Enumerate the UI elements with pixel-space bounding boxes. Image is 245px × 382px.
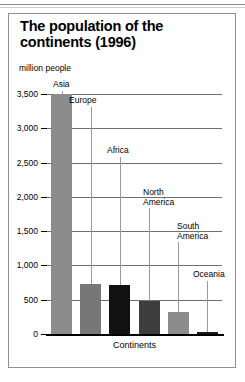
gridline xyxy=(47,197,222,198)
gridline xyxy=(47,265,222,266)
y-axis-tick xyxy=(41,94,47,95)
y-axis-tick xyxy=(41,197,47,198)
y-axis-tick-label: 1,000 xyxy=(0,260,38,270)
chart-title: The population of the continents (1996) xyxy=(20,18,220,50)
gridline xyxy=(47,128,222,129)
annotation-oceania: Oceania xyxy=(193,270,225,280)
annotation-north-america: North America xyxy=(143,188,174,207)
y-axis-tick xyxy=(41,300,47,301)
plot-area: 05001,0001,5002,0002,5003,0003,500 AsiaE… xyxy=(47,94,222,334)
y-axis-tick xyxy=(41,163,47,164)
y-axis-tick-label: 0 xyxy=(0,329,38,339)
page-top-rule-secondary xyxy=(0,7,245,8)
leader-line-africa xyxy=(120,157,121,285)
annotation-south-america: South America xyxy=(177,222,208,241)
leader-line-europe xyxy=(91,107,92,284)
y-axis-tick-label: 2,500 xyxy=(0,158,38,168)
y-axis-tick-label: 3,000 xyxy=(0,123,38,133)
y-axis-tick-label: 500 xyxy=(0,295,38,305)
annotation-asia: Asia xyxy=(53,80,70,90)
annotation-europe: Europe xyxy=(69,96,96,106)
leader-line-oceania xyxy=(207,281,208,332)
y-axis-tick xyxy=(41,265,47,266)
y-axis-tick xyxy=(41,231,47,232)
bar-europe xyxy=(80,284,101,334)
annotation-africa: Africa xyxy=(107,146,129,156)
bar-asia xyxy=(51,94,72,334)
bar-south-america xyxy=(168,312,189,334)
y-axis-tick-label: 1,500 xyxy=(0,226,38,236)
bar-africa xyxy=(109,285,130,334)
leader-line-south-america xyxy=(178,242,179,312)
gridline xyxy=(47,163,222,164)
y-axis-tick-label: 3,500 xyxy=(0,89,38,99)
x-axis-line xyxy=(46,334,224,336)
bar-north-america xyxy=(139,301,160,334)
leader-line-north-america xyxy=(149,208,150,301)
gridline xyxy=(47,300,222,301)
y-axis-tick xyxy=(41,128,47,129)
y-axis-tick-label: 2,000 xyxy=(0,192,38,202)
page-top-rule xyxy=(0,4,245,5)
leader-line-asia xyxy=(62,91,63,95)
x-axis-label: Continents xyxy=(47,340,222,350)
y-axis-unit-label: million people xyxy=(19,64,71,74)
